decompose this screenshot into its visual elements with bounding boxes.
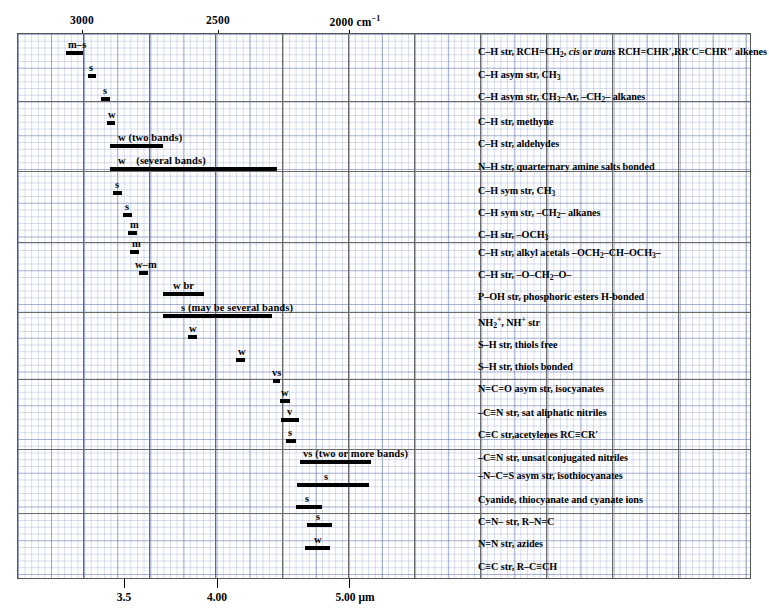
band-intensity-label: w <box>189 323 197 334</box>
bottom-axis-tick-label-4-00: 4.00 <box>207 591 227 603</box>
top-axis-tick-label-2500: 2500 <box>206 14 230 26</box>
assignment-item: –N–C=S asym str, isothiocyanates <box>478 470 623 482</box>
band-intensity-label: w <box>108 109 116 120</box>
assignment-item: C–H asym str, CH3 <box>478 69 560 84</box>
bottom-axis-tick-3-5 <box>124 579 125 588</box>
assignment-item: C–H str, –O–CH2–O– <box>478 269 571 284</box>
top-axis-tick-label-3000: 3000 <box>70 14 94 26</box>
assignment-item: P–OH str, phosphoric esters H-bonded <box>478 291 644 303</box>
top-axis: 3000 2500 2000 cm−1 <box>0 0 769 34</box>
bottom-axis-tick-label-5-00: 5.00 μm <box>335 591 374 603</box>
band-marker <box>163 314 272 317</box>
band-intensity-label: m <box>132 238 141 249</box>
band-intensity-label: w–m <box>135 259 157 270</box>
band-marker <box>139 271 148 274</box>
assignment-item: C–H asym str, CH3–Ar, –CH2– alkanes <box>478 91 645 106</box>
band-marker <box>107 121 115 124</box>
band-intensity-label: s (may be several bands) <box>181 302 293 313</box>
band-marker <box>281 418 299 421</box>
band-marker <box>188 335 197 338</box>
ir-correlation-chart: 3000 2500 2000 cm−1 m–s s <box>0 0 769 611</box>
band-marker <box>113 191 122 194</box>
band-intensity-label: w <box>281 387 289 398</box>
bottom-axis-tick-4-00 <box>217 579 218 588</box>
assignment-item: C–H str, aldehydes <box>478 138 559 150</box>
band-marker <box>88 74 96 77</box>
band-intensity-label: w (several bands) <box>118 155 206 166</box>
band-intensity-label: s <box>316 511 320 522</box>
band-marker <box>300 460 371 463</box>
assignment-list: C–H str, RCH=CH2, cis or trans RCH=CHR′,… <box>478 33 751 579</box>
assignment-item: C–H str, alkyl acetals –OCH2–CH–OCH3– <box>478 247 661 262</box>
band-intensity-label: v <box>287 406 292 417</box>
band-marker <box>163 292 204 295</box>
band-intensity-label: m–s <box>68 39 86 50</box>
bottom-axis-tick-label-3-5: 3.5 <box>117 591 131 603</box>
band-marker <box>110 167 277 170</box>
band-intensity-label: s <box>125 201 129 212</box>
band-marker <box>110 144 163 147</box>
assignment-item: C–H sym str, –CH2– alkanes <box>478 207 600 222</box>
band-intensity-label: s <box>324 471 328 482</box>
assignment-item: S–H str, thiols free <box>478 339 557 351</box>
assignment-item: C≡C str,acetylenes RC≡CR′ <box>478 429 598 441</box>
assignment-item: N=N str, azides <box>478 538 543 550</box>
band-intensity-label: w <box>314 534 322 545</box>
band-intensity-label: s <box>89 62 93 73</box>
assignment-item: N–H str, quarternary amine salts bonded <box>478 161 655 173</box>
band-intensity-label: m <box>130 219 139 230</box>
band-marker <box>101 97 110 100</box>
band-intensity-label: s <box>115 179 119 190</box>
assignment-item: Cyanide, thiocyanate and cyanate ions <box>478 494 643 506</box>
band-intensity-label: w br <box>173 280 194 291</box>
band-intensity-label: w <box>238 346 246 357</box>
band-intensity-label: s <box>103 85 107 96</box>
bottom-axis-tick-5-00 <box>349 579 350 588</box>
top-axis-tick-label-2000: 2000 cm−1 <box>330 14 381 28</box>
assignment-item: N=C=O asym str, isocyanates <box>478 383 604 395</box>
band-marker <box>286 439 296 442</box>
bottom-axis: 3.5 4.00 5.00 μm <box>0 579 769 611</box>
band-marker <box>236 358 245 361</box>
assignment-item: –C≡N str, unsat conjugated nitriles <box>478 452 628 464</box>
assignment-item: C–H str, RCH=CH2, cis or trans RCH=CHR′,… <box>478 46 767 61</box>
band-intensity-label: w (two bands) <box>118 132 182 143</box>
band-marker <box>307 523 332 526</box>
assignment-item: C=N– str, R–N=C <box>478 516 554 528</box>
assignment-item: S–H str, thiols bonded <box>478 361 573 373</box>
band-intensity-label: vs <box>272 367 282 378</box>
band-marker <box>130 250 139 253</box>
assignment-item: C–H sym str, CH3 <box>478 185 555 200</box>
assignment-item: C≡C str, R–C≡CH <box>478 561 557 573</box>
band-intensity-label: vs (two or more bands) <box>303 448 408 459</box>
assignment-item: C–H str, –OCH3 <box>478 229 548 244</box>
assignment-item: –C≡N str, sat aliphatic nitriles <box>478 407 607 419</box>
assignment-item: C–H str, methyne <box>478 116 554 128</box>
band-intensity-label: s <box>305 493 309 504</box>
band-marker <box>66 51 83 54</box>
band-marker <box>305 546 330 549</box>
assignment-item: NH2+, NH+ str <box>478 314 540 332</box>
band-intensity-label: s <box>288 427 292 438</box>
band-marker <box>297 483 369 486</box>
